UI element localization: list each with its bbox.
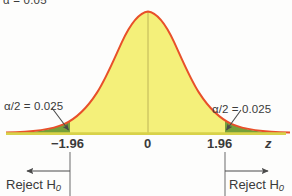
bell-curve-chart [0, 0, 292, 196]
reject-right-subscript: 0 [279, 183, 284, 193]
tick-label-negative-critical: −1.96 [51, 137, 84, 150]
alpha-half-left-label: α/2 = 0.025 [4, 101, 63, 113]
reject-right-text: Reject H [229, 177, 279, 192]
x-axis-variable-label: z [265, 137, 272, 150]
reject-left-subscript: 0 [56, 183, 61, 193]
significance-level-label: α = 0.05 [3, 0, 47, 7]
alpha-half-right-label: α/2 = 0.025 [212, 104, 271, 116]
reject-region-label-right: Reject H0 [229, 178, 284, 193]
reject-left-text: Reject H [6, 177, 56, 192]
normal-distribution-figure: α = 0.05 α/2 = 0.025 α/2 = 0.025 −1.96 0… [0, 0, 292, 196]
tick-label-zero: 0 [144, 137, 151, 150]
reject-region-label-left: Reject H0 [6, 178, 61, 193]
tick-label-positive-critical: 1.96 [207, 137, 232, 150]
